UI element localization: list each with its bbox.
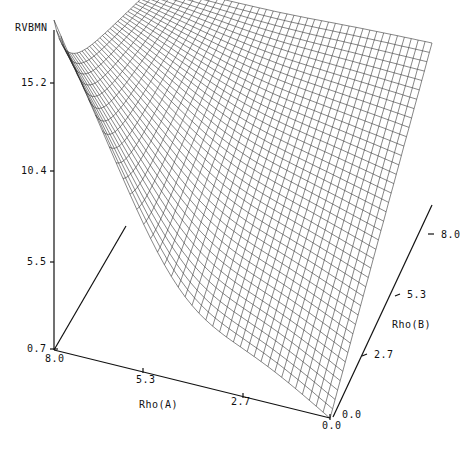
mesh-line <box>136 4 412 118</box>
x-tick-label: 5.3 <box>136 374 156 385</box>
mesh-line <box>171 11 273 276</box>
mesh-line <box>54 20 330 418</box>
y-axis-title: Rho(B) <box>392 319 431 330</box>
y-tick-label: 2.7 <box>374 349 394 360</box>
mesh-line <box>282 33 384 377</box>
y-tick-label: 0.0 <box>342 409 362 420</box>
mesh-line <box>144 5 246 225</box>
mesh-line <box>227 22 329 337</box>
z-tick-label: 10.4 <box>21 165 47 176</box>
mesh-line <box>185 14 287 297</box>
mesh-line <box>123 16 399 165</box>
mesh-line <box>64 48 340 381</box>
y-tick-label: 5.3 <box>407 289 427 300</box>
back-diagonal-line <box>54 226 126 350</box>
mesh-line <box>275 32 377 372</box>
z-tick-label: 5.5 <box>27 256 47 267</box>
x-tick-label: 2.7 <box>231 396 251 407</box>
x-tick-label: 0.0 <box>322 420 342 431</box>
z-axis-title: RVBMN <box>15 22 48 33</box>
rho-a-axis-line <box>54 350 330 418</box>
y-tick-label: 8.0 <box>441 229 461 240</box>
surface-plot <box>0 0 476 449</box>
x-axis-title: Rho(A) <box>139 399 178 410</box>
rho-b-axis-line <box>333 205 432 417</box>
mesh-line <box>330 43 432 418</box>
mesh-line <box>158 8 260 252</box>
mesh-line <box>105 33 381 230</box>
mesh-line <box>240 25 342 347</box>
mesh-line <box>289 34 391 383</box>
mesh-line <box>206 18 308 320</box>
mesh-line <box>164 9 266 264</box>
mesh-line <box>130 2 232 195</box>
mesh-line <box>89 0 191 108</box>
mesh-line <box>199 17 301 314</box>
z-tick-label: 0.7 <box>27 343 47 354</box>
z-tick-label: 15.2 <box>21 77 47 88</box>
x-tick-label: 8.0 <box>45 353 65 364</box>
mesh-line <box>254 27 356 356</box>
mesh-line <box>268 30 370 367</box>
mesh-line <box>54 0 156 53</box>
mesh-line <box>247 26 349 352</box>
mesh-line <box>59 38 335 399</box>
mesh-line <box>95 0 197 121</box>
